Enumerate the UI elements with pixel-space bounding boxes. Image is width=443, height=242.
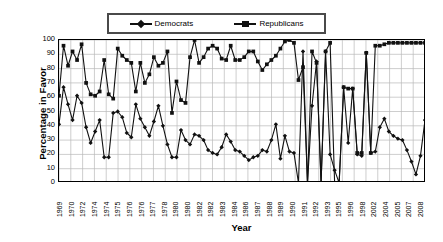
legend-item-democrats: Democrats [130,19,194,28]
y-tick-label: 60 [28,92,55,100]
legend-label-democrats: Democrats [155,20,194,28]
legend-item-republicans: Republicans [234,19,303,28]
x-tick-label: 1991 [301,202,308,217]
x-tick-label: 1995 [335,202,342,217]
y-tick-label: 70 [28,78,55,86]
diamond-marker-icon [130,19,152,28]
y-axis-tick-labels: 1009080706050403020100 [28,39,55,182]
x-tick-label: 1976 [138,202,145,217]
chart-legend: Democrats Republicans [107,13,326,34]
y-tick-label: 30 [28,135,55,143]
y-tick-label: 100 [28,35,55,43]
y-tick-label: 40 [28,121,55,129]
y-tick-label: 80 [28,64,55,72]
plot-svg [59,40,425,182]
square-marker-icon [234,19,256,28]
x-tick-label: 1990 [289,202,296,217]
x-tick-label: 1976 [126,202,133,217]
x-tick-label: 1992 [312,202,319,217]
y-tick-label: 20 [28,150,55,158]
x-axis-tick-labels: 1969197019721974197419751976197619771978… [58,183,425,217]
y-tick-label: 50 [28,107,55,115]
x-tick-label: 1982 [207,202,214,217]
series-democrats [59,49,425,182]
x-tick-label: 1980 [184,202,191,217]
x-axis-title: Year [58,222,425,233]
x-tick-label: 1972 [79,202,86,217]
x-tick-label: 2005 [394,202,401,217]
x-tick-label: 2008 [417,202,424,217]
x-tick-label: 2004 [382,202,389,217]
x-tick-label: 1980 [172,202,179,217]
x-tick-label: 1977 [149,202,156,217]
plot-area [58,39,425,182]
x-tick-label: 1982 [196,202,203,217]
series-republicans [59,40,425,182]
x-tick-label: 1987 [254,202,261,217]
legend-label-republicans: Republicans [259,20,303,28]
y-tick-label: 90 [28,50,55,58]
x-tick-label: 1998 [359,202,366,217]
y-tick-label: 10 [28,164,55,172]
x-tick-label: 2002 [370,202,377,217]
chart-container: Democrats Republicans Percentage in Favo… [0,0,443,242]
x-tick-label: 1970 [68,202,75,217]
x-tick-label: 1986 [242,202,249,217]
x-tick-label: 1978 [161,202,168,217]
x-tick-label: 1993 [324,202,331,217]
x-tick-label: 1983 [219,202,226,217]
x-tick-label: 2007 [405,202,412,217]
x-tick-label: 1988 [266,202,273,217]
x-tick-label: 1974 [91,202,98,217]
x-tick-label: 1974 [103,202,110,217]
x-tick-label: 1989 [277,202,284,217]
gridlines [59,40,425,182]
x-tick-label: 1996 [347,202,354,217]
y-tick-label: 0 [28,178,55,186]
x-tick-label: 1975 [114,202,121,217]
x-tick-label: 1969 [56,202,63,217]
x-tick-label: 1984 [231,202,238,217]
